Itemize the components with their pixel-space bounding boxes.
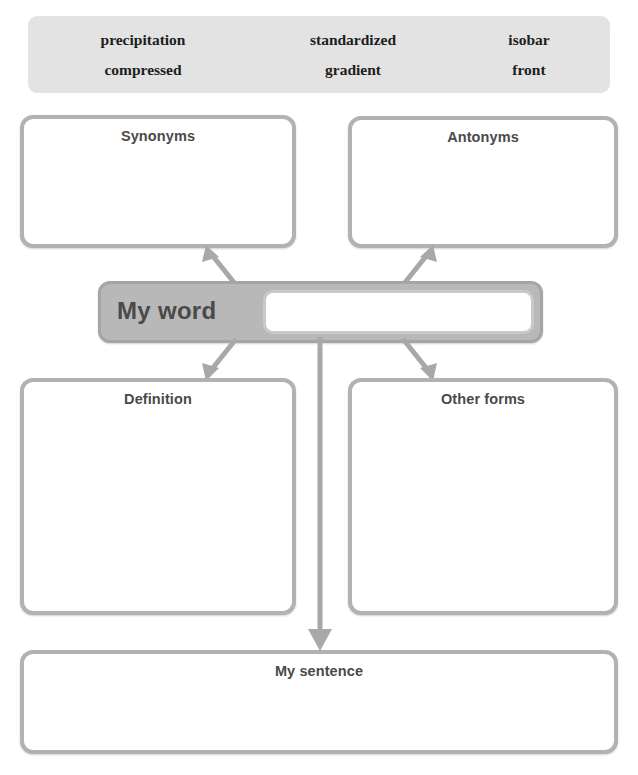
antonyms-box-title: Antonyms	[352, 129, 614, 145]
word-bank-word-standardized[interactable]: standardized	[258, 31, 448, 49]
antonyms-box[interactable]: Antonyms	[348, 116, 618, 248]
card-inner-highlight	[354, 384, 612, 609]
my-word-bar: My word	[98, 281, 543, 343]
synonyms-box[interactable]: Synonyms	[20, 115, 296, 248]
word-bank: precipitation standardized isobar compre…	[28, 16, 610, 93]
arrow-to-my-sentence-icon	[300, 337, 340, 653]
word-bank-row: compressed gradient front	[28, 55, 610, 85]
card-inner-highlight	[26, 384, 290, 609]
word-bank-word-gradient[interactable]: gradient	[258, 61, 448, 79]
my-sentence-box-title: My sentence	[24, 663, 614, 679]
arrow-to-other-forms-icon	[395, 337, 443, 383]
other-forms-box-title: Other forms	[352, 391, 614, 407]
definition-box-title: Definition	[24, 391, 292, 407]
arrow-to-definition-icon	[196, 337, 244, 383]
definition-box[interactable]: Definition	[20, 378, 296, 615]
word-bank-word-compressed[interactable]: compressed	[28, 61, 258, 79]
word-bank-row: precipitation standardized isobar	[28, 25, 610, 55]
word-bank-word-isobar[interactable]: isobar	[448, 31, 610, 49]
my-sentence-box[interactable]: My sentence	[20, 650, 618, 754]
my-word-label: My word	[117, 297, 216, 325]
my-word-input[interactable]	[263, 290, 534, 334]
other-forms-box[interactable]: Other forms	[348, 378, 618, 615]
word-bank-word-front[interactable]: front	[448, 61, 610, 79]
synonyms-box-title: Synonyms	[24, 128, 292, 144]
vocabulary-word-map-worksheet: precipitation standardized isobar compre…	[0, 0, 638, 775]
word-bank-word-precipitation[interactable]: precipitation	[28, 31, 258, 49]
